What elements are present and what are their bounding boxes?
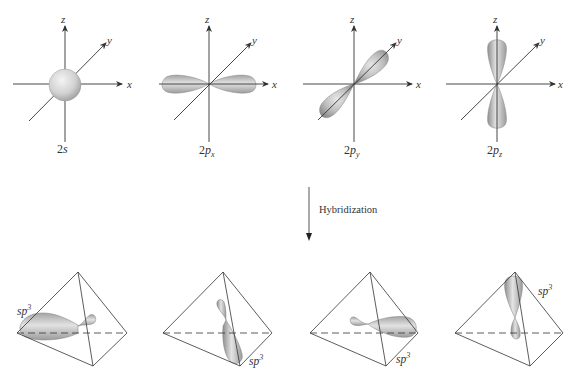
y-axis-label: y (539, 34, 545, 46)
sp3-panel-1: sp3 (17, 272, 127, 366)
x-axis-label: x (126, 78, 132, 90)
sp3-label: sp3 (249, 353, 263, 368)
y-axis (318, 43, 396, 120)
y-axis-label: y (251, 34, 257, 46)
y-axis-label: y (106, 34, 112, 46)
sp3-label: sp3 (396, 351, 410, 366)
s-orbital-sphere (49, 69, 81, 101)
sp3-panel-4: sp3 (455, 272, 563, 366)
sp3-minor-lobe (78, 315, 96, 326)
sp3-minor-lobe (217, 300, 226, 320)
sp3-label: sp3 (538, 283, 552, 298)
orbital-caption-2s: 2s (57, 142, 68, 156)
orbital-caption-2px: 2px (199, 143, 215, 159)
panel-2px: x z y 2px (159, 13, 277, 159)
sp3-minor-lobe (511, 318, 520, 339)
panel-2pz: x z y 2pz (446, 13, 563, 159)
x-axis-label: x (415, 78, 421, 90)
orbital-caption-2py: 2py (344, 143, 360, 159)
y-axis-label: y (396, 34, 402, 46)
panel-2s: x z y 2s (13, 13, 132, 156)
hybridization-label: Hybridization (319, 204, 378, 215)
z-axis-label: z (60, 13, 66, 25)
x-axis-label: x (557, 78, 563, 90)
hybridization-step: Hybridization (306, 187, 378, 241)
sp3-panel-2: sp3 (163, 272, 272, 368)
sp3-major-lobe (20, 313, 78, 340)
z-axis-label: z (204, 13, 210, 25)
hybridization-diagram: x z y 2s x z y 2px x z y 2py x z y (0, 0, 580, 379)
z-axis-label: z (349, 13, 355, 25)
sp3-major-lobe (368, 316, 416, 337)
z-axis-label: z (492, 13, 498, 25)
sp3-minor-lobe (350, 317, 368, 326)
arrow-down-icon (306, 233, 312, 241)
x-axis-label: x (271, 78, 277, 90)
sp3-major-lobe (505, 276, 523, 318)
sp3-panel-3: sp3 (310, 272, 418, 366)
orbital-caption-2pz: 2pz (487, 143, 503, 159)
panel-2py: x z y 2py (303, 13, 421, 159)
